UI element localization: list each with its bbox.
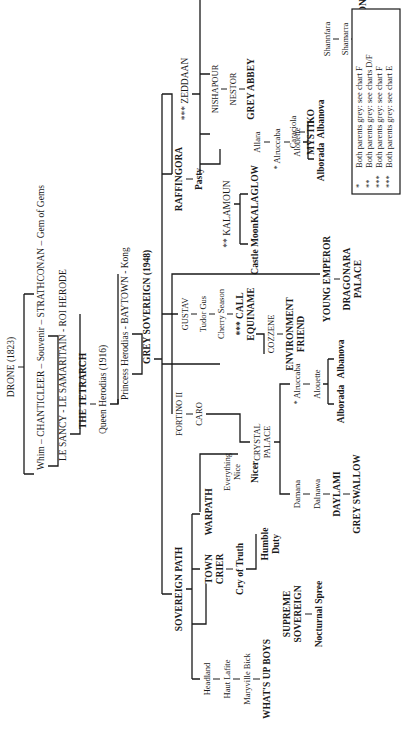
root-ancestor: DRONE (1823) xyxy=(6,337,17,397)
dragonara-palace-line2: PALACE xyxy=(353,260,363,298)
nishapour: NISHAPOUR xyxy=(210,64,220,113)
humble-duty-line1: Humble xyxy=(260,528,270,561)
everything-nice-line1: Everything xyxy=(222,452,232,491)
dragonara-palace-line1: DRAGONARA xyxy=(342,247,352,310)
nocturnal-spree: Nocturnal Spree xyxy=(314,581,324,648)
caraciola: Caraciola xyxy=(288,115,298,148)
cherry-season: Cherry Season xyxy=(216,288,226,339)
shamarra: Shamarra xyxy=(340,22,350,55)
cry-of-truth: Cry of Truth xyxy=(235,542,245,595)
call-equiname-line2: EQUINAME xyxy=(246,287,256,340)
branch-raffingora: RAFFINGORA Pasty ** KALAMOUN Castle Moon… xyxy=(174,99,326,275)
young-emperor: YOUNG EMPEROR xyxy=(322,236,332,322)
daylami: DAYLAMI xyxy=(332,471,342,517)
legend-marker-2: ** xyxy=(364,180,374,189)
pedigree-diagram: DRONE (1823) Whim – CHANTICLEER – Souven… xyxy=(0,0,404,734)
grey-swallow: GREY SWALLOW xyxy=(352,454,362,534)
legend-text-4: Both parents grey: see chart E xyxy=(384,66,394,168)
allara: Allara xyxy=(252,131,262,152)
supreme-sovereign-line1: SUPREME xyxy=(282,591,292,637)
caro: CARO xyxy=(194,402,204,426)
legend: * Both parents grey: see chart F ** Both… xyxy=(352,9,400,194)
alborada: Alborada xyxy=(316,142,326,181)
call-equiname-line1: *** CALL xyxy=(235,292,245,335)
grey-abbey: GREY ABBEY xyxy=(246,58,256,120)
legend-text-2: Both parents grey: see charts D/F xyxy=(364,54,374,168)
cozzene: COZZENE xyxy=(266,315,276,354)
branch-zeddaan: *** ZEDDAAN NISHAPOUR NESTOR GREY ABBEY … xyxy=(162,0,368,174)
grey-sovereign: GREY SOVEREIGN (1948) xyxy=(142,250,153,364)
crystal-palace-line1: CRYSTAL xyxy=(252,423,262,461)
gustav: GUSTAV xyxy=(180,297,190,331)
fortino-ii: FORTINO II xyxy=(174,392,184,436)
ancestry-line-5: Princess Herodias - BAYTOWN - Kong xyxy=(120,247,130,400)
branch-gustav: GUSTAV Tudor Gus Cherry Season *** CALL … xyxy=(172,287,306,414)
everything-nice-line2: Nice xyxy=(232,464,242,480)
damana: Damana xyxy=(292,480,302,509)
tudor-gus: Tudor Gus xyxy=(198,296,208,332)
ancestry-line-2: LE SANCY - LE SAMARITAIN - ROI HERODE xyxy=(58,269,68,461)
ancestry-line-3: THE TETRARCH xyxy=(78,352,88,429)
crystal-palace-line2: PALACE xyxy=(262,426,272,458)
town-crier-line1: TOWN xyxy=(204,554,214,584)
environment-friend-line1: ENVIRONMENT xyxy=(285,297,295,371)
shannfara: Shannfara xyxy=(322,22,332,57)
legend-text-1: Both parents grey: see chart F xyxy=(354,66,364,168)
nicer: Nicer xyxy=(250,460,260,483)
legend-marker-4: *** xyxy=(384,175,394,188)
nestor: NESTOR xyxy=(228,72,238,105)
legend-marker-1: * xyxy=(354,184,364,188)
supreme-sovereign-line2: SOVEREIGN xyxy=(293,585,303,642)
alouette-2: Alouette xyxy=(312,369,322,398)
ancestry-line-1: Whim – CHANTICLEER – Souvenir – STRATHCO… xyxy=(36,185,46,470)
kalamoun: ** KALAMOUN xyxy=(222,180,232,247)
ancestry-line-4: Queen Herodias (1916) xyxy=(98,345,109,434)
branch-fortino: FORTINO II CARO CRYSTAL PALACE Damana Da… xyxy=(174,339,362,534)
mystiko: MYSTIKO xyxy=(306,109,316,155)
warpath: WARPATH xyxy=(204,488,214,536)
kalaglow: KALAGLOW xyxy=(250,164,260,223)
zeddaan: *** ZEDDAAN xyxy=(180,58,190,121)
alborada-2: Alborada xyxy=(336,384,346,423)
ancestry-chain: DRONE (1823) Whim – CHANTICLEER – Souven… xyxy=(6,185,153,474)
legend-marker-3: *** xyxy=(374,175,384,188)
headland: Headland xyxy=(202,662,212,695)
albanova-2: Albanova xyxy=(336,339,346,378)
humble-duty-line2: Duty xyxy=(271,534,281,554)
castle-moon: Castle Moon xyxy=(250,223,260,275)
dalnawa: Dalnawa xyxy=(312,479,322,509)
pasty: Pasty xyxy=(194,168,204,190)
maryville-bick: Maryville Bick xyxy=(242,652,252,704)
town-crier-line2: CRIER xyxy=(215,554,225,585)
legend-text-3: Both parents grey: see chart F xyxy=(374,66,384,168)
whats-up-boys: WHAT'S UP BOYS xyxy=(262,639,272,719)
haut-lafite: Haut Lafite xyxy=(222,659,232,698)
raffingora: RAFFINGORA xyxy=(174,147,184,212)
branch-young-emperor: YOUNG EMPEROR DRAGONARA PALACE xyxy=(162,236,363,322)
environment-friend-line2: FRIEND xyxy=(296,316,306,353)
sovereign-path: SOVEREIGN PATH xyxy=(174,546,184,631)
alruccaba: * Alruccaba xyxy=(272,128,282,169)
albanova: Albanova xyxy=(316,99,326,138)
